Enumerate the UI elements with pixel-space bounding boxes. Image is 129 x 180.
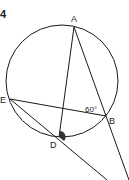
angle-marker-D [59,131,66,141]
circle [6,25,118,137]
line-AB-extended [74,27,129,180]
line-EB [10,99,106,116]
line-ED-extended [10,99,107,180]
geometry-diagram [0,0,129,180]
line-AD [59,27,74,137]
